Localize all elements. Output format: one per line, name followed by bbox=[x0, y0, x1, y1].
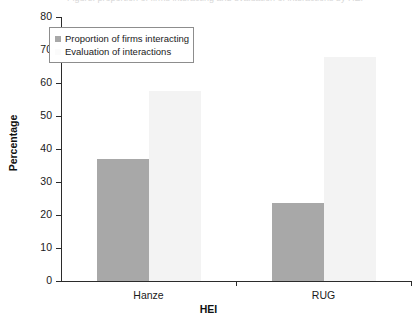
bar bbox=[97, 159, 149, 281]
y-axis-tick-label: 10 bbox=[40, 241, 52, 254]
y-axis-tick-label: 0 bbox=[46, 274, 52, 287]
bar bbox=[324, 57, 376, 281]
legend-label: Proportion of firms interacting bbox=[65, 33, 189, 45]
y-axis-tick-label: 80 bbox=[40, 10, 52, 23]
bar bbox=[149, 91, 201, 281]
y-axis-title: Percentage bbox=[7, 93, 19, 193]
bar bbox=[272, 203, 324, 281]
legend-item: Evaluation of interactions bbox=[55, 45, 187, 58]
chart-figure: Figure: proportion of firms interacting … bbox=[0, 0, 417, 325]
y-axis-tick-label: 20 bbox=[40, 208, 52, 221]
x-axis-category-label: RUG bbox=[284, 289, 364, 302]
legend-swatch-icon bbox=[55, 49, 61, 55]
x-axis-tick bbox=[236, 281, 237, 286]
y-axis-tick-label: 30 bbox=[40, 175, 52, 188]
x-axis-category-label: Hanze bbox=[109, 289, 189, 302]
y-axis-tick-label: 50 bbox=[40, 109, 52, 122]
legend-item: Proportion of firms interacting bbox=[55, 32, 187, 45]
x-axis-title: HEI bbox=[0, 303, 417, 315]
legend-swatch-icon bbox=[55, 36, 61, 42]
y-axis-tick: 0 bbox=[56, 281, 61, 282]
y-axis-tick-label: 40 bbox=[40, 142, 52, 155]
figure-title-clipped: Figure: proportion of firms interacting … bbox=[55, 0, 375, 5]
y-axis-tick-label: 60 bbox=[40, 76, 52, 89]
chart-legend: Proportion of firms interacting Evaluati… bbox=[49, 27, 194, 63]
x-axis-tick bbox=[411, 281, 412, 286]
legend-label: Evaluation of interactions bbox=[65, 46, 171, 58]
